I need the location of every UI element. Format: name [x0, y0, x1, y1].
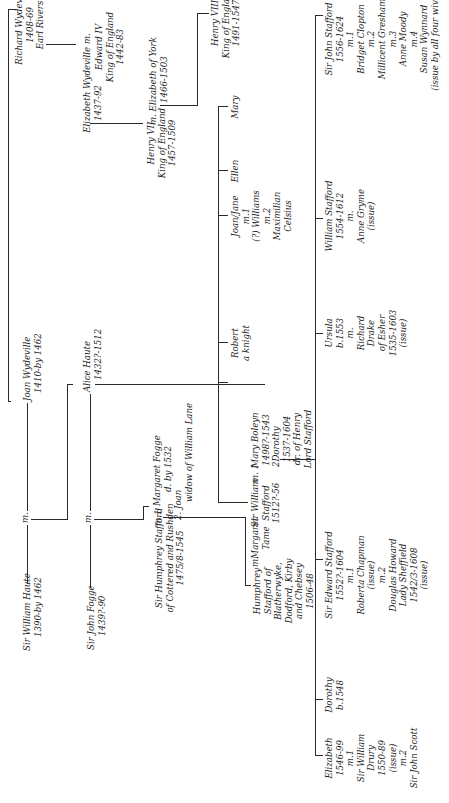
- line: Douglas Howard: [388, 531, 399, 618]
- connector-line: [218, 107, 219, 163]
- connector-line: [218, 502, 248, 503]
- line: m.1: [345, 531, 356, 618]
- connector-line: [197, 13, 209, 14]
- name: Edward IV: [94, 12, 105, 82]
- title: King of England: [221, 0, 232, 58]
- line: Mary Boleyn: [250, 412, 261, 467]
- line: b.1548: [335, 677, 346, 712]
- name: Elizabeth of York: [148, 37, 158, 111]
- connector-line: [27, 525, 28, 584]
- line: and Chebsey: [294, 559, 305, 624]
- connector-line: [163, 517, 246, 518]
- line: b.1553: [335, 310, 346, 357]
- line: m.4: [409, 0, 420, 91]
- connector-line: [197, 13, 198, 106]
- line: Millicent Gresham: [377, 0, 388, 91]
- node-mary: Mary: [230, 96, 241, 119]
- line: m.1: [345, 728, 356, 789]
- node-alice-haute: Alice Haute 1432?-1512: [82, 329, 103, 392]
- line: Humphrey: [252, 559, 263, 624]
- line: Maximilian: [272, 190, 283, 241]
- connector-line: [67, 385, 68, 520]
- connector-line: [27, 403, 28, 511]
- line: 1506-48: [305, 559, 316, 624]
- line: 1552?-1604: [335, 531, 346, 618]
- name: Joan Wydeville: [22, 333, 33, 401]
- line: of Esher: [377, 310, 388, 357]
- line: William Stafford: [324, 180, 335, 251]
- connector-line: [245, 585, 251, 586]
- connector-line: [160, 105, 198, 106]
- dates: 1442-83: [115, 12, 126, 82]
- line: m.2: [262, 190, 273, 241]
- name: Margaret Fogge: [152, 403, 163, 506]
- line: Joan/Jane: [230, 190, 241, 241]
- dates: 1410-by 1462: [33, 333, 44, 401]
- connector-line: [315, 16, 316, 756]
- line: Sir William: [356, 728, 367, 789]
- line: (issue by all four wives): [430, 0, 441, 91]
- node-margaret-fogge: Margaret Fogge d. by 1532 2. Joan widow …: [152, 403, 194, 506]
- name: Elizabeth Wydeville: [82, 47, 92, 133]
- connector-line: [143, 506, 144, 520]
- line: (issue): [419, 531, 430, 618]
- line: m.1: [241, 190, 252, 241]
- connector-line: [8, 10, 9, 402]
- node-william-stafford: Sir William Stafford 1512?-56: [250, 479, 282, 527]
- line: Richard: [356, 310, 367, 357]
- connector-line: [90, 123, 143, 124]
- line: m.2: [377, 531, 388, 618]
- connector-line: [315, 699, 323, 700]
- name: Sir John Fogge: [86, 585, 97, 650]
- line: Robert: [230, 325, 241, 361]
- line: m.2: [366, 0, 377, 91]
- second-wife-note: widow of William Lane: [184, 403, 195, 506]
- connector-line: [67, 384, 73, 385]
- title: Earl Rivers: [35, 0, 46, 65]
- node-john-fogge: Sir John Fogge 1439?-90: [86, 585, 107, 650]
- dates: 1491-1547: [231, 0, 242, 58]
- line: m.3: [388, 0, 399, 91]
- node-elizabeth: Elizabeth 1546-99 m.1 Sir William Drury …: [324, 728, 419, 789]
- node-william-stafford-jr: William Stafford 1554-1612 m. Anne Gryme…: [324, 180, 377, 251]
- line: 1542/3-1608: [409, 531, 420, 618]
- node-ursula: Ursula b.1553 m. Richard Drake of Esher …: [324, 310, 409, 357]
- connector-line: [218, 382, 228, 383]
- connector-line: [315, 559, 323, 560]
- line: Dodford, Kirby: [284, 559, 295, 624]
- dates: 1390-by 1462: [33, 573, 44, 651]
- line: Anne Gryme: [356, 180, 367, 251]
- line: Lady Sheffield: [398, 531, 409, 618]
- name: Richard Wydeville: [14, 0, 25, 65]
- second-wife-name: Joan: [173, 490, 183, 509]
- line: m.: [345, 180, 356, 251]
- line: 1554-1612: [335, 180, 346, 251]
- connector-line: [143, 506, 149, 507]
- marriage-label-m1: m.1: [153, 510, 163, 526]
- connector-line: [245, 517, 246, 586]
- line: Anne Moody: [398, 0, 409, 91]
- dates: 1439?-90: [97, 585, 108, 650]
- marriage-marker: 2.: [173, 512, 183, 520]
- dates: 1432?-1512: [93, 329, 104, 392]
- connector-line: [31, 519, 68, 520]
- node-joan-wydeville: Joan Wydeville 1410-by 1462: [22, 333, 43, 401]
- line: Sir William: [250, 479, 261, 527]
- node-joan-jane: Joan/Jane m.1 (?) Williams m.2 Maximilia…: [230, 190, 294, 241]
- connector-line: [315, 333, 323, 334]
- connector-line: [280, 459, 315, 460]
- line: Susan Wynnard: [419, 0, 430, 91]
- dates: 1408-69: [25, 0, 36, 65]
- connector-line: [218, 342, 228, 343]
- connector-line: [218, 106, 228, 107]
- connector-line: [315, 15, 323, 16]
- connector-line: [218, 215, 228, 216]
- connector-line: [94, 519, 144, 520]
- line: Sir John Scott: [409, 728, 420, 789]
- line: 1556-1624: [335, 0, 346, 91]
- line: 1546-99: [335, 728, 346, 789]
- line: Dorothy: [324, 677, 335, 712]
- line: 1498?-1543: [261, 412, 272, 467]
- connector-line: [46, 44, 76, 45]
- node-dorothy: Dorothy b.1548: [324, 677, 345, 712]
